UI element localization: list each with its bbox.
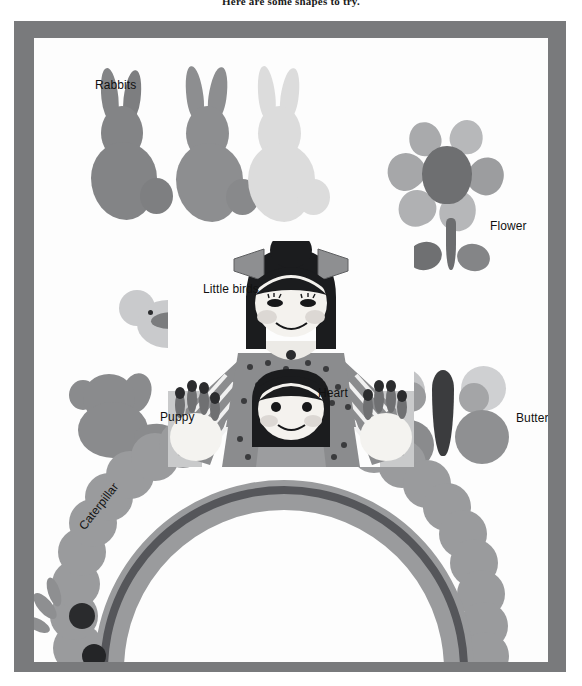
girl-cheek-left [257, 310, 277, 324]
rabbit-print-3 [247, 66, 329, 228]
rabbit-foot [140, 178, 173, 214]
girl-cheek-right [305, 310, 325, 324]
rabbit-print-1 [91, 68, 171, 228]
picture-frame: Rabbits Flower Little birds Puppy Heart … [14, 21, 566, 672]
children-photo [168, 241, 414, 467]
boy-cheek-right [304, 415, 322, 427]
bird-eye [148, 310, 153, 315]
picture-frame-inner: Rabbits Flower Little birds Puppy Heart … [34, 38, 548, 662]
page-caption: Here are some shapes to try. [0, 0, 582, 7]
label-flower: Flower [490, 219, 527, 233]
flower-center [422, 146, 472, 204]
page-root: Here are some shapes to try. [0, 0, 582, 686]
caterpillar-arc-band [94, 480, 474, 662]
label-rabbits: Rabbits [95, 78, 136, 92]
label-puppy: Puppy [160, 410, 195, 424]
flower-leaf-right [455, 241, 493, 274]
label-little-birds: Little birds [203, 282, 259, 296]
children-photo-svg [168, 241, 414, 467]
caterpillar-eye [69, 603, 95, 629]
boy-cheek-left [260, 415, 278, 427]
flower-stem [446, 218, 456, 270]
girl-collar-button [286, 350, 296, 360]
rabbit-foot [297, 179, 330, 215]
rabbit-print-2 [176, 66, 258, 228]
butterfly-wing-upper-right-inner [459, 383, 489, 413]
label-heart: Heart [318, 386, 348, 400]
label-butterfly: Butterfly [516, 411, 548, 425]
